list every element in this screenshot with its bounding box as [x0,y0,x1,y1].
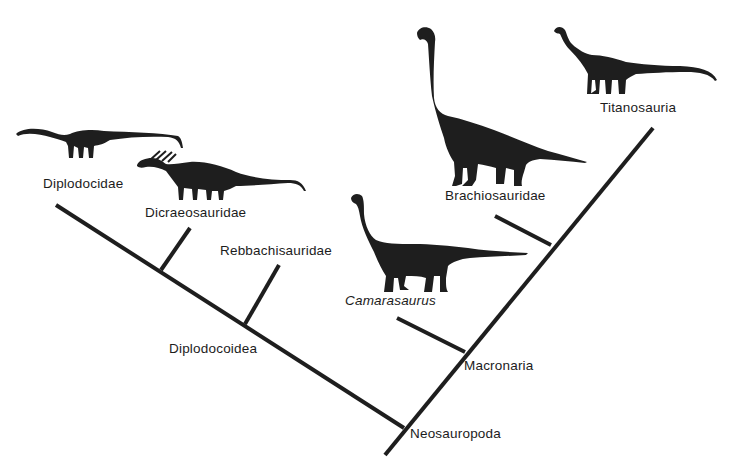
cladogram-figure: Diplodocidae Dicraeosauridae Rebbachisau… [0,0,735,466]
cladogram-lines [0,0,735,466]
dicraeosaurid-silhouette [137,151,306,200]
taxon-label-rebbachisauridae: Rebbachisauridae [220,243,332,258]
taxon-label-brachiosauridae: Brachiosauridae [445,188,546,203]
branch-brachiosauridae [495,216,551,245]
camarasaurus-silhouette [351,194,528,292]
branch-diplodocoidea-stem [56,205,404,428]
branch-dicraeosauridae [161,228,190,270]
node-label-macronaria: Macronaria [464,358,534,373]
taxon-label-titanosauria: Titanosauria [600,100,676,115]
taxon-label-dicraeosauridae: Dicraeosauridae [145,205,246,220]
brachiosaurid-silhouette [417,27,587,186]
titanosaur-silhouette [554,27,717,94]
taxon-label-camarasaurus: Camarasaurus [345,293,436,308]
branch-camarasaurus [397,318,465,352]
node-label-neosauropoda: Neosauropoda [410,426,501,441]
branch-rebbachisauridae [245,265,279,324]
taxon-label-diplodocidae: Diplodocidae [43,176,123,191]
node-label-diplodocoidea: Diplodocoidea [169,341,257,356]
